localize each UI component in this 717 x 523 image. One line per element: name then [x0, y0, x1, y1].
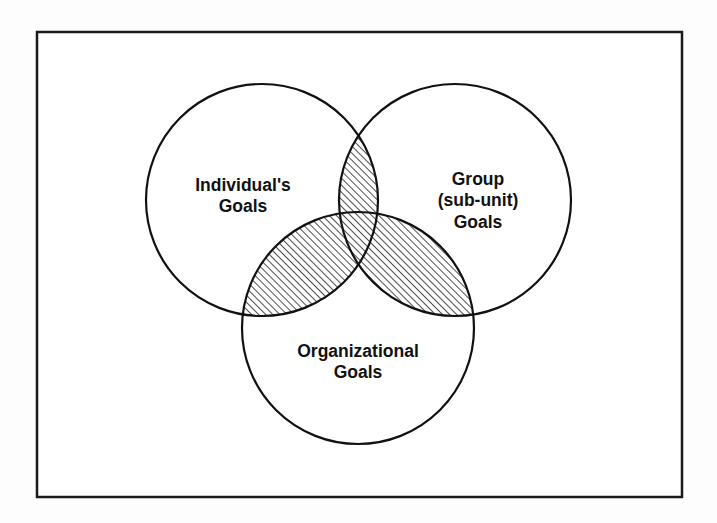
venn-diagram: Individual'sGoals Group(sub-unit)Goals O…	[0, 0, 717, 523]
diagram-canvas: Individual'sGoals Group(sub-unit)Goals O…	[0, 0, 717, 523]
